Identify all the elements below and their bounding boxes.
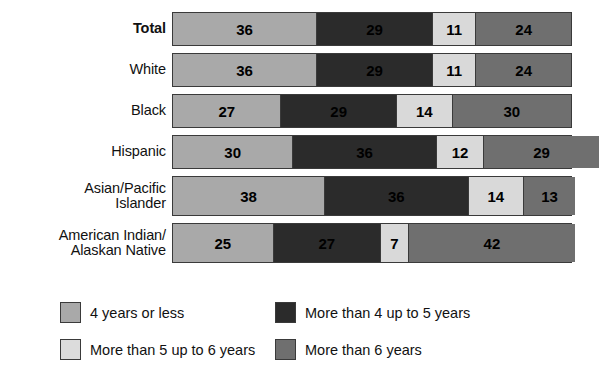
bar-segment: 24 [475, 54, 571, 86]
legend-swatch-icon [60, 302, 81, 323]
bar-segment: 29 [316, 13, 431, 45]
row-category-label: Total [0, 21, 172, 37]
legend-swatch-icon [275, 302, 296, 323]
stacked-bar: 36291124 [172, 53, 572, 87]
legend-row: 4 years or lessMore than 4 up to 5 years [0, 302, 600, 339]
chart-legend: 4 years or lessMore than 4 up to 5 years… [0, 302, 600, 376]
row-category-label: White [0, 62, 172, 78]
bar-segment: 29 [483, 136, 598, 168]
legend-more-than-4-up-to-5-years[interactable]: More than 4 up to 5 years [275, 302, 470, 323]
bar-segment-value: 42 [484, 235, 501, 252]
stacked-bar: 36291124 [172, 12, 572, 46]
bar-segment: 14 [468, 177, 524, 215]
chart-plot-area: Total36291124White36291124Black27291430H… [0, 10, 600, 268]
chart-row: White36291124 [0, 51, 600, 89]
legend-label: More than 6 years [305, 342, 422, 358]
bar-segment: 27 [273, 224, 380, 262]
bar-segment: 11 [432, 13, 476, 45]
bar-segment-value: 24 [515, 62, 532, 79]
bar-segment: 30 [173, 136, 292, 168]
row-category-label: Hispanic [0, 144, 172, 160]
legend-row: More than 5 up to 6 yearsMore than 6 yea… [0, 339, 600, 376]
bar-segment-value: 29 [366, 21, 383, 38]
legend-label: More than 4 up to 5 years [305, 305, 470, 321]
chart-row: Hispanic30361229 [0, 133, 600, 171]
bar-segment-value: 29 [533, 144, 550, 161]
bar-segment: 13 [523, 177, 575, 215]
row-category-label: Asian/Pacific Islander [0, 181, 172, 212]
bar-segment-value: 27 [218, 103, 235, 120]
chart-row: Asian/Pacific Islander38361413 [0, 174, 600, 218]
bar-segment-value: 11 [446, 21, 462, 38]
bar-segment: 7 [380, 224, 408, 262]
bar-segment-value: 14 [416, 103, 433, 120]
bar-segment: 11 [432, 54, 476, 86]
bar-segment-value: 36 [236, 62, 253, 79]
bar-segment-value: 36 [236, 21, 253, 38]
legend-label: More than 5 up to 6 years [90, 342, 255, 358]
bar-segment: 25 [173, 224, 273, 262]
stacked-bar: 38361413 [172, 176, 572, 216]
stacked-bar: 2527742 [172, 223, 572, 263]
stacked-bar: 27291430 [172, 94, 572, 128]
bar-segment: 30 [452, 95, 571, 127]
bar-segment: 24 [475, 13, 571, 45]
chart-row: American Indian/ Alaskan Native2527742 [0, 221, 600, 265]
bar-segment: 42 [408, 224, 575, 262]
legend-swatch-icon [60, 339, 81, 360]
bar-segment-value: 30 [224, 144, 241, 161]
bar-segment-value: 27 [318, 235, 335, 252]
bar-segment: 29 [280, 95, 395, 127]
row-category-label: Black [0, 103, 172, 119]
stacked-bar-chart: Total36291124White36291124Black27291430H… [0, 0, 600, 389]
bar-segment-value: 11 [446, 62, 462, 79]
bar-segment-value: 36 [356, 144, 373, 161]
bar-segment: 29 [316, 54, 431, 86]
bar-segment-value: 25 [214, 235, 231, 252]
bar-segment-value: 30 [503, 103, 520, 120]
legend-more-than-5-up-to-6-years[interactable]: More than 5 up to 6 years [0, 339, 275, 360]
bar-segment-value: 14 [488, 188, 505, 205]
bar-segment-value: 13 [541, 188, 558, 205]
legend-label: 4 years or less [90, 305, 184, 321]
bar-segment-value: 29 [330, 103, 347, 120]
bar-segment-value: 7 [390, 235, 398, 252]
bar-segment: 36 [292, 136, 435, 168]
chart-row: Black27291430 [0, 92, 600, 130]
bar-segment: 38 [173, 177, 324, 215]
bar-segment: 14 [396, 95, 452, 127]
bar-segment-value: 38 [240, 188, 257, 205]
bar-segment-value: 24 [515, 21, 532, 38]
bar-segment: 36 [324, 177, 467, 215]
stacked-bar: 30361229 [172, 135, 572, 169]
bar-segment: 27 [173, 95, 280, 127]
bar-segment: 36 [173, 54, 316, 86]
bar-segment: 12 [436, 136, 484, 168]
bar-segment-value: 29 [366, 62, 383, 79]
bar-segment: 36 [173, 13, 316, 45]
legend-4-years-or-less[interactable]: 4 years or less [0, 302, 275, 323]
legend-more-than-6-years[interactable]: More than 6 years [275, 339, 422, 360]
chart-row: Total36291124 [0, 10, 600, 48]
bar-segment-value: 36 [388, 188, 405, 205]
bar-segment-value: 12 [452, 144, 469, 161]
row-category-label: American Indian/ Alaskan Native [0, 228, 172, 259]
legend-swatch-icon [275, 339, 296, 360]
